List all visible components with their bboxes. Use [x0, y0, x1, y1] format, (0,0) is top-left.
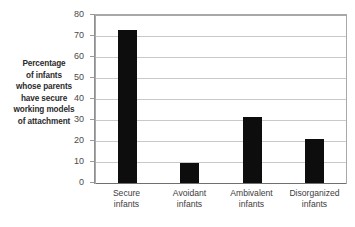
x-tick-label: Avoidantinfants: [158, 188, 221, 209]
y-tick-label: 80: [74, 10, 84, 19]
x-axis-labels: SecureinfantsAvoidantinfantsAmbivalentin…: [95, 188, 347, 222]
y-tick-label: 0: [79, 178, 84, 187]
y-tick-label: 40: [74, 94, 84, 103]
bar-chart-figure: Percentage of infants whose parents have…: [0, 0, 355, 227]
x-tick-label: Secureinfants: [95, 188, 158, 209]
x-tick-label-line: Secure: [95, 188, 158, 199]
x-tick-label-line: infants: [95, 199, 158, 210]
gridline: [96, 183, 346, 184]
bar: [243, 117, 262, 183]
x-tick-label-line: infants: [158, 199, 221, 210]
y-tick-label: 30: [74, 115, 84, 124]
x-tick-label-line: infants: [220, 199, 283, 210]
y-tick-label: 50: [74, 73, 84, 82]
bar: [305, 139, 324, 183]
bar: [118, 30, 137, 183]
bars-layer: [96, 15, 346, 183]
y-axis-ticks: 80706050403020100: [0, 14, 95, 184]
x-tick-label-line: Ambivalent: [220, 188, 283, 199]
plot-area: [95, 14, 347, 184]
x-tick-label-line: Avoidant: [158, 188, 221, 199]
x-tick-label-line: Disorganized: [283, 188, 346, 199]
y-tick-label: 20: [74, 136, 84, 145]
y-tick-label: 10: [74, 157, 84, 166]
bar: [180, 163, 199, 183]
y-tick-label: 70: [74, 31, 84, 40]
x-tick-label: Ambivalentinfants: [220, 188, 283, 209]
x-tick-label: Disorganizedinfants: [283, 188, 346, 209]
y-tick-label: 60: [74, 52, 84, 61]
x-tick-label-line: infants: [283, 199, 346, 210]
